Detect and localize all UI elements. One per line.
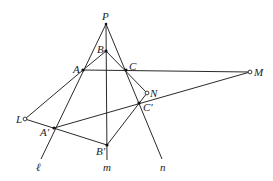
segment-ac-extended-to-m (83, 70, 250, 72)
point-m (248, 70, 252, 74)
segment-bc-extended-to-n (106, 51, 147, 93)
point-p (105, 23, 108, 26)
point-n (145, 91, 149, 95)
label-line-n: n (160, 161, 166, 173)
point-c (124, 68, 127, 71)
label-n: N (149, 87, 158, 99)
point-b (104, 49, 107, 52)
point-b-prime (105, 143, 108, 146)
label-l: L (15, 113, 22, 125)
point-l (23, 117, 27, 121)
line-m (106, 24, 107, 160)
label-c: C (129, 60, 137, 72)
segment-b2c2-extended-to-n (107, 93, 147, 145)
point-a (81, 68, 84, 71)
label-b: B (97, 43, 104, 55)
label-b-prime: B' (96, 145, 106, 157)
segment-ab-extended-to-l (25, 70, 83, 119)
label-line-m: m (103, 161, 111, 173)
label-a: A (72, 63, 80, 75)
segment-a2b2-extended-to-l (25, 119, 107, 145)
label-a-prime: A' (39, 126, 50, 138)
segment-a2c2-extended-to-m (54, 72, 250, 128)
point-c-prime (137, 101, 140, 104)
point-a-prime (52, 126, 55, 129)
label-p: P (101, 10, 109, 22)
label-m: M (253, 66, 264, 78)
label-c-prime: C' (143, 101, 153, 113)
label-line-l: ℓ (36, 161, 41, 173)
desargues-diagram: P B A C M N C' L A' B' ℓ m n (0, 0, 273, 181)
